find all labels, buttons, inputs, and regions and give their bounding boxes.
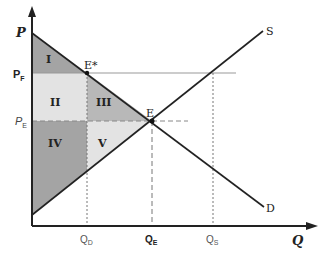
region-V-label: V	[97, 137, 107, 150]
region-I-label: I	[46, 53, 51, 66]
supply-label: S	[266, 25, 274, 38]
x-axis-arrow-icon	[306, 222, 318, 230]
x-axis-label: Q	[292, 233, 304, 248]
price-floor-diagram: I II III IV V E* E S D P Q PF PE QD QE Q…	[0, 0, 330, 257]
y-axis-arrow-icon	[28, 6, 36, 17]
y-axis-label: P	[15, 25, 27, 40]
floor-point-label: E*	[84, 59, 98, 72]
region-II-label: II	[50, 96, 60, 109]
region-III-label: III	[96, 96, 111, 109]
qs-label: QS	[206, 234, 219, 246]
equilibrium-point-label: E	[146, 107, 154, 120]
qe-label: QE	[145, 234, 158, 246]
qd-label: QD	[80, 234, 93, 246]
region-IV-label: IV	[48, 137, 62, 150]
region-IV	[32, 121, 87, 215]
equilibrium-price-label: PE	[15, 115, 27, 129]
price-floor-label: PF	[13, 68, 25, 82]
demand-label: D	[266, 202, 275, 215]
